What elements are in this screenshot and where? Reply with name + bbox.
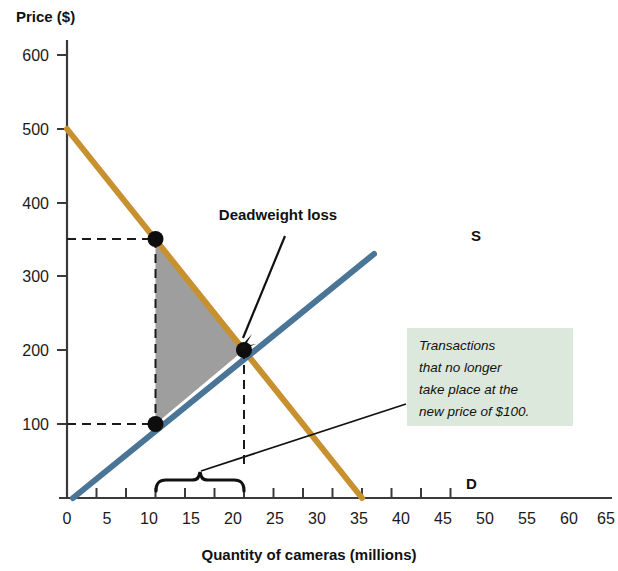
x-tick-label-50: 50 [476,510,494,527]
x-tick-label-40: 40 [392,510,410,527]
x-tick-label-35: 35 [350,510,368,527]
x-tick-label-0: 0 [63,510,72,527]
y-tick-label-400: 400 [22,195,49,212]
x-tick-label-20: 20 [224,510,242,527]
x-axis-ticks [97,488,451,498]
point-supply-at-restricted-quantity [148,416,164,432]
x-tick-label-45: 45 [434,510,452,527]
y-tick-label-200: 200 [22,342,49,359]
x-axis-title: Quantity of cameras (millions) [201,546,416,563]
x-tick-label-25: 25 [266,510,284,527]
point-demand-at-restricted-quantity [148,231,164,247]
deadweight-loss-supply-demand-chart: Price ($) 100 200 300 400 500 600 [0,0,618,571]
x-tick-label-60: 60 [560,510,578,527]
callout-leader-line [201,404,406,471]
economics-chart: Price ($) 100 200 300 400 500 600 [0,0,618,571]
lost-transactions-brace [156,472,244,491]
callout-line-2: that no longer [419,360,502,375]
deadweight-loss-arrow-shaft [243,236,285,338]
x-tick-label-15: 15 [182,510,200,527]
y-tick-label-500: 500 [22,121,49,138]
callout-line-1: Transactions [419,338,496,353]
demand-curve-label: D [466,475,477,492]
x-axis-tick-labels: 0 5 10 15 20 25 30 35 40 45 50 55 60 65 [63,510,615,527]
y-tick-label-600: 600 [22,47,49,64]
y-tick-label-100: 100 [22,416,49,433]
x-tick-label-10: 10 [140,510,158,527]
demand-curve [67,129,362,498]
supply-curve-label: S [471,227,481,244]
x-tick-label-65: 65 [597,510,615,527]
x-tick-label-55: 55 [518,510,536,527]
callout-line-3: take place at the [419,382,518,397]
x-tick-label-5: 5 [103,510,112,527]
y-tick-label-300: 300 [22,268,49,285]
x-tick-label-30: 30 [308,510,326,527]
y-axis-title: Price ($) [16,8,75,25]
callout-line-4: new price of $100. [419,404,529,419]
y-axis-ticks [57,55,67,424]
supply-curve [73,254,374,498]
y-axis-tick-labels: 100 200 300 400 500 600 [22,47,49,433]
deadweight-loss-label: Deadweight loss [219,206,337,223]
